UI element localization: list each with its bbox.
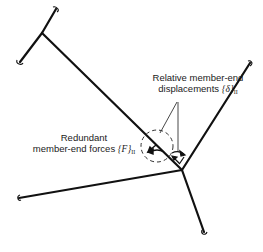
leader-lines bbox=[160, 102, 178, 152]
member-lower bbox=[182, 170, 204, 232]
frame-members bbox=[19, 9, 250, 232]
member-upper-left-b bbox=[20, 33, 42, 62]
member-upper-left-a bbox=[42, 9, 56, 33]
arrowhead-icon bbox=[172, 156, 177, 160]
force-symbol: {F} bbox=[118, 144, 131, 154]
displacement-subscript: II bbox=[234, 89, 238, 95]
member-left bbox=[19, 170, 182, 198]
displacement-label-line1: Relative member-end bbox=[139, 72, 257, 83]
leader-line-displacement-a bbox=[160, 102, 177, 133]
displacement-tick bbox=[180, 157, 184, 163]
displacement-symbol: {δ} bbox=[222, 84, 234, 94]
redundant-force-label: Redundant member-end forces {F}II bbox=[18, 132, 150, 158]
force-label-line1: Redundant bbox=[18, 132, 150, 143]
fixed-support-icons bbox=[17, 7, 252, 235]
displacement-label-line2: displacements {δ}II bbox=[139, 83, 257, 98]
displacement-label: Relative member-end displacements {δ}II bbox=[139, 72, 257, 98]
force-subscript: II bbox=[131, 149, 135, 155]
force-label-line2: member-end forces {F}II bbox=[18, 143, 150, 158]
frame-diagram bbox=[0, 0, 263, 252]
